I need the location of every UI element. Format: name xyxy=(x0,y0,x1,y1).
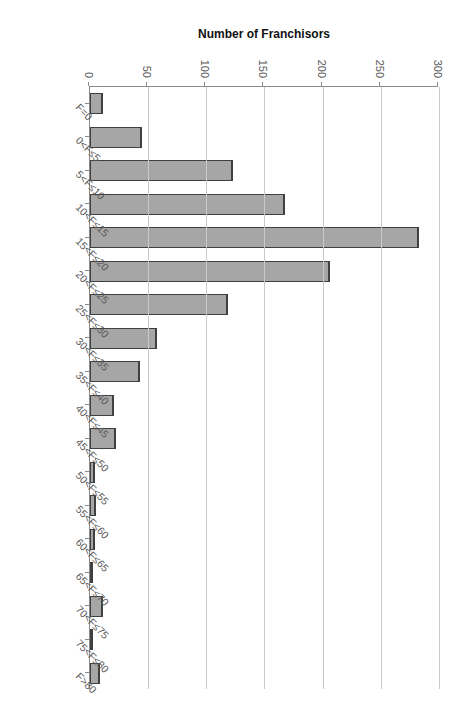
y-tick-label: 100 xyxy=(199,60,211,78)
y-axis-title: Number of Franchisors xyxy=(185,27,345,41)
bar[interactable] xyxy=(90,261,330,282)
bar[interactable] xyxy=(90,227,419,248)
y-tick-label: 300 xyxy=(432,60,444,78)
gridline xyxy=(323,87,324,689)
bar[interactable] xyxy=(90,127,142,148)
y-tick-mark xyxy=(321,82,322,86)
gridline xyxy=(206,87,207,689)
gridline xyxy=(265,87,266,689)
y-tick-label: 0 xyxy=(83,72,95,78)
x-tick-mark xyxy=(85,237,89,238)
y-tick-label: 250 xyxy=(374,60,386,78)
y-tick-label: 50 xyxy=(141,66,153,78)
y-tick-mark xyxy=(437,82,438,86)
bar[interactable] xyxy=(90,160,233,181)
x-tick-mark xyxy=(85,371,89,372)
x-tick-mark xyxy=(85,438,89,439)
gridline xyxy=(148,87,149,689)
rotated-figure-wrapper: 050100150200250300 F=00<F≤55<F≤1010<F≤15… xyxy=(0,0,452,726)
x-tick-mark xyxy=(85,103,89,104)
y-tick-label: 150 xyxy=(258,60,270,78)
y-tick-mark xyxy=(204,82,205,86)
gridline xyxy=(381,87,382,689)
y-tick-mark xyxy=(263,82,264,86)
x-tick-mark xyxy=(85,304,89,305)
y-tick-mark xyxy=(146,82,147,86)
plot-area xyxy=(89,86,438,689)
x-tick-mark xyxy=(85,639,89,640)
x-tick-mark xyxy=(85,170,89,171)
y-tick-mark xyxy=(88,82,89,86)
x-tick-mark xyxy=(85,572,89,573)
bar[interactable] xyxy=(90,194,285,215)
y-tick-mark xyxy=(379,82,380,86)
gridline xyxy=(439,87,440,689)
bar-chart-figure: 050100150200250300 F=00<F≤55<F≤1010<F≤15… xyxy=(0,0,452,726)
x-tick-mark xyxy=(85,505,89,506)
y-tick-label: 200 xyxy=(316,60,328,78)
